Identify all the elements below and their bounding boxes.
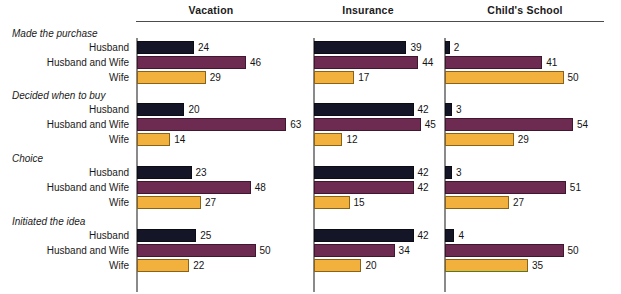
- bar-value-label: 14: [174, 133, 185, 146]
- bar-value-label: 25: [200, 229, 211, 242]
- bar-value-label: 15: [354, 196, 365, 209]
- bar-wife: [137, 196, 201, 209]
- bar-husband: [445, 229, 454, 242]
- bar-wife: [314, 196, 350, 209]
- series-label-husband: Husband: [89, 230, 129, 241]
- bar-value-label: 42: [418, 103, 429, 116]
- bar-husband: [137, 229, 196, 242]
- bar-value-label: 27: [513, 196, 524, 209]
- series-label-husband: Husband: [89, 42, 129, 53]
- bar-value-label: 22: [193, 259, 204, 272]
- grouped-bar-chart: Vacation Insurance Child's School Made t…: [0, 0, 621, 294]
- bar-value-label: 44: [422, 56, 433, 69]
- bar-wife: [137, 259, 189, 272]
- series-label-husband-and-wife: Husband and Wife: [47, 182, 129, 193]
- bar-wife: [314, 259, 361, 272]
- series-label-husband-and-wife: Husband and Wife: [47, 119, 129, 130]
- bar-husband: [314, 229, 414, 242]
- bar-value-label: 39: [410, 41, 421, 54]
- bar-husband-and-wife: [314, 181, 414, 194]
- bar-husband-and-wife: [445, 181, 566, 194]
- series-label-wife: Wife: [109, 134, 129, 145]
- bar-value-label: 50: [568, 71, 579, 84]
- series-label-wife: Wife: [109, 197, 129, 208]
- bar-husband: [445, 103, 452, 116]
- bar-value-label: 3: [456, 103, 462, 116]
- bar-husband-and-wife: [445, 118, 573, 131]
- bar-value-label: 2: [454, 41, 460, 54]
- bar-husband: [314, 103, 414, 116]
- panel-vacation: 244629206314234827255022: [136, 0, 293, 294]
- bar-value-label: 20: [365, 259, 376, 272]
- bar-wife: [445, 259, 528, 272]
- bar-husband: [445, 166, 452, 179]
- bar-husband-and-wife: [137, 56, 246, 69]
- bar-value-label: 17: [358, 71, 369, 84]
- bar-wife: [445, 196, 509, 209]
- bar-value-label: 3: [456, 166, 462, 179]
- bar-value-label: 29: [518, 133, 529, 146]
- panel-childs-school: 24150354293512745035: [444, 0, 621, 294]
- group-label: Decided when to buy: [12, 90, 105, 101]
- bar-value-label: 46: [250, 56, 261, 69]
- bar-husband-and-wife: [314, 244, 395, 257]
- bar-husband: [314, 41, 406, 54]
- bar-husband: [314, 166, 414, 179]
- bar-wife: [137, 133, 170, 146]
- series-label-wife: Wife: [109, 72, 129, 83]
- bar-husband: [137, 103, 184, 116]
- bar-value-label: 50: [260, 244, 271, 257]
- bar-husband: [445, 41, 450, 54]
- group-label: Choice: [12, 153, 43, 164]
- bar-value-label: 45: [425, 118, 436, 131]
- bar-husband-and-wife: [314, 56, 418, 69]
- bar-wife: [314, 71, 354, 84]
- bar-value-label: 48: [255, 181, 266, 194]
- series-label-husband-and-wife: Husband and Wife: [47, 245, 129, 256]
- bar-husband: [137, 41, 194, 54]
- series-label-husband-and-wife: Husband and Wife: [47, 57, 129, 68]
- group-label: Made the purchase: [12, 28, 98, 39]
- bar-wife: [137, 71, 206, 84]
- bar-value-label: 4: [458, 229, 464, 242]
- bar-value-label: 42: [418, 166, 429, 179]
- bar-husband-and-wife: [137, 244, 256, 257]
- series-label-husband: Husband: [89, 167, 129, 178]
- bar-husband-and-wife: [137, 118, 286, 131]
- bar-husband-and-wife: [314, 118, 421, 131]
- bar-value-label: 27: [205, 196, 216, 209]
- bar-value-label: 12: [346, 133, 357, 146]
- bar-value-label: 51: [570, 181, 581, 194]
- bar-wife: [445, 71, 564, 84]
- bar-husband-and-wife: [137, 181, 251, 194]
- bar-husband-and-wife: [445, 244, 564, 257]
- bar-value-label: 50: [568, 244, 579, 257]
- bar-husband-and-wife: [445, 56, 542, 69]
- bar-value-label: 54: [577, 118, 588, 131]
- bar-value-label: 42: [418, 181, 429, 194]
- bar-value-label: 23: [196, 166, 207, 179]
- bar-value-label: 63: [290, 118, 301, 131]
- bar-wife: [445, 133, 514, 146]
- bar-value-label: 41: [546, 56, 557, 69]
- series-label-husband: Husband: [89, 104, 129, 115]
- bar-value-label: 20: [188, 103, 199, 116]
- bar-value-label: 29: [210, 71, 221, 84]
- group-label: Initiated the idea: [12, 216, 85, 227]
- series-label-wife: Wife: [109, 260, 129, 271]
- bar-husband: [137, 166, 192, 179]
- bar-value-label: 35: [532, 259, 543, 272]
- bar-value-label: 42: [418, 229, 429, 242]
- row-label-column: Made the purchaseHusbandHusband and Wife…: [0, 0, 133, 294]
- bar-value-label: 34: [399, 244, 410, 257]
- bar-value-label: 24: [198, 41, 209, 54]
- bar-wife: [314, 133, 342, 146]
